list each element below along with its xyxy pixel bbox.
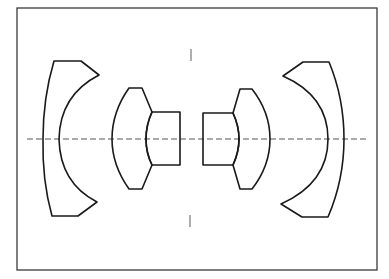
- lens-diagram: [0, 0, 389, 279]
- diagram-frame: [17, 8, 377, 270]
- lens-diagram-canvas: [0, 0, 389, 279]
